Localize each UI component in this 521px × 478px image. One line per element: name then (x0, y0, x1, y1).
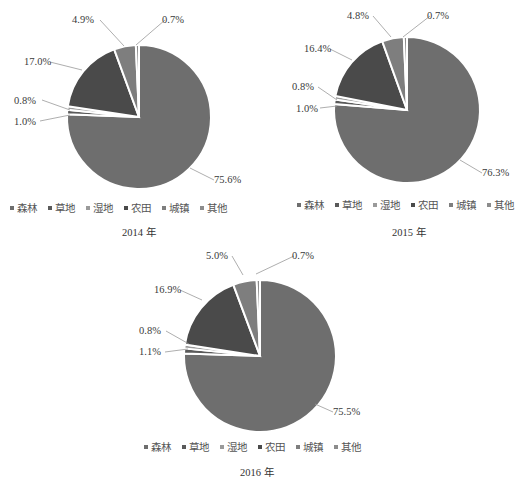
legend-item: 农田 (258, 439, 285, 454)
leader-line (136, 20, 165, 45)
legend-label: 草地 (55, 200, 75, 215)
pie-chart-2016: 75.5% 1.1% 0.8% 16.9% 5.0% 0.7% 森林草地湿地农田… (130, 240, 390, 478)
leader-line (460, 160, 482, 173)
legend-label: 草地 (342, 197, 362, 212)
label-forest: 76.3% (482, 167, 509, 178)
label-other: 0.7% (427, 10, 449, 21)
legend-item: 草地 (48, 200, 75, 215)
legend-label: 森林 (304, 197, 324, 212)
legend-item: 草地 (182, 439, 209, 454)
label-farmland: 16.4% (304, 43, 331, 54)
label-wetland: 0.8% (139, 325, 161, 336)
legend-swatch-icon (411, 203, 415, 207)
label-urban: 4.9% (72, 14, 94, 25)
label-wetland: 0.8% (14, 95, 36, 106)
label-grassland: 1.0% (14, 116, 36, 127)
legend-label: 森林 (17, 200, 37, 215)
label-other: 0.7% (292, 250, 314, 261)
legend-item: 其他 (200, 200, 227, 215)
chart-title-2015: 2015 年 (392, 224, 426, 239)
legend-label: 湿地 (93, 200, 113, 215)
leader-line (315, 404, 333, 412)
legend-label: 城镇 (169, 200, 189, 215)
legend-item: 森林 (144, 439, 171, 454)
legend-swatch-icon (86, 206, 90, 210)
legend-swatch-icon (334, 445, 338, 449)
leader-line (50, 62, 82, 70)
label-grassland: 1.0% (296, 103, 318, 114)
legend-swatch-icon (296, 445, 300, 449)
leader-line (256, 256, 294, 274)
legend-item: 湿地 (220, 439, 247, 454)
legend-item: 森林 (10, 200, 37, 215)
legend-item: 其他 (334, 439, 361, 454)
legend-item: 森林 (297, 197, 324, 212)
leader-line (373, 16, 391, 37)
legend-label: 其他 (341, 439, 361, 454)
pie-chart-2015: 76.3% 1.0% 0.8% 16.4% 4.8% 0.7% 森林草地湿地农田… (260, 0, 521, 240)
leader-line (40, 115, 70, 121)
legend-item: 草地 (335, 197, 362, 212)
legend-item: 城镇 (449, 197, 476, 212)
legend-swatch-icon (335, 203, 339, 207)
legend-item: 其他 (487, 197, 514, 212)
label-farmland: 16.9% (154, 284, 181, 295)
legend-label: 农田 (265, 439, 285, 454)
leader-line (42, 100, 70, 110)
label-farmland: 17.0% (24, 56, 51, 67)
leader-line (330, 49, 352, 60)
legend-2016: 森林草地湿地农田城镇其他 (144, 439, 361, 454)
legend-label: 森林 (151, 439, 171, 454)
legend-label: 其他 (207, 200, 227, 215)
leader-line (403, 16, 430, 37)
label-urban: 5.0% (206, 250, 228, 261)
legend-item: 农田 (411, 197, 438, 212)
legend-2014: 森林草地湿地农田城镇其他 (10, 200, 227, 215)
legend-item: 城镇 (296, 439, 323, 454)
label-forest: 75.6% (214, 174, 241, 185)
chart-title-2016: 2016 年 (240, 464, 274, 478)
legend-swatch-icon (10, 206, 14, 210)
legend-label: 湿地 (380, 197, 400, 212)
legend-swatch-icon (258, 445, 262, 449)
legend-swatch-icon (182, 445, 186, 449)
legend-swatch-icon (449, 203, 453, 207)
legend-2015: 森林草地湿地农田城镇其他 (297, 197, 514, 212)
legend-swatch-icon (297, 203, 301, 207)
chart-title-2014: 2014 年 (122, 224, 156, 239)
leader-line (100, 20, 124, 46)
legend-label: 城镇 (456, 197, 476, 212)
legend-item: 农田 (124, 200, 151, 215)
legend-label: 农田 (418, 197, 438, 212)
label-other: 0.7% (162, 14, 184, 25)
legend-swatch-icon (162, 206, 166, 210)
legend-item: 湿地 (373, 197, 400, 212)
pie-chart-2014: 75.6% 1.0% 0.8% 17.0% 4.9% 0.7% 森林草地湿地农田… (0, 0, 260, 240)
leader-line (180, 290, 202, 300)
legend-swatch-icon (373, 203, 377, 207)
legend-swatch-icon (200, 206, 204, 210)
legend-swatch-icon (487, 203, 491, 207)
legend-label: 城镇 (303, 439, 323, 454)
label-urban: 4.8% (347, 10, 369, 21)
leader-line (318, 87, 337, 100)
leader-line (232, 256, 243, 275)
legend-label: 其他 (494, 197, 514, 212)
legend-label: 湿地 (227, 439, 247, 454)
legend-item: 湿地 (86, 200, 113, 215)
legend-swatch-icon (220, 445, 224, 449)
legend-swatch-icon (124, 206, 128, 210)
legend-item: 城镇 (162, 200, 189, 215)
label-grassland: 1.1% (139, 346, 161, 357)
legend-label: 草地 (189, 439, 209, 454)
label-wetland: 0.8% (292, 81, 314, 92)
legend-label: 农田 (131, 200, 151, 215)
legend-swatch-icon (144, 445, 148, 449)
leader-line (190, 168, 214, 180)
legend-swatch-icon (48, 206, 52, 210)
label-forest: 75.5% (333, 406, 360, 417)
